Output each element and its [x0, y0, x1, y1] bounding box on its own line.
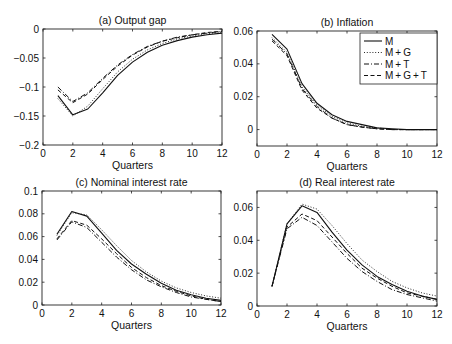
- x-tick-label: 4: [314, 149, 320, 160]
- y-tick-label: 0: [33, 24, 39, 35]
- y-tick-label: 0.06: [234, 202, 254, 213]
- x-tick-label: 12: [431, 149, 443, 160]
- chart-canvas: (a) Output gap024681012−0.2−0.15−0.1−0.0…: [0, 0, 452, 344]
- x-tick-label: 12: [431, 309, 443, 320]
- y-tick-label: 0.06: [234, 26, 254, 37]
- y-tick-label: 0: [247, 301, 253, 312]
- series-line-m: [57, 212, 221, 301]
- series-line-m-plus-g: [58, 33, 222, 117]
- x-tick-label: 0: [254, 309, 260, 320]
- x-tick-label: 8: [374, 309, 380, 320]
- x-tick-label: 2: [70, 148, 76, 159]
- x-tick-label: 4: [99, 308, 105, 319]
- panel-title: (c) Nominal interest rate: [75, 176, 187, 188]
- x-tick-label: 10: [401, 149, 413, 160]
- panel-inflation: (b) Inflation02468101200.020.040.06Quart…: [234, 16, 443, 172]
- x-tick-label: 2: [284, 309, 290, 320]
- x-tick-label: 12: [215, 308, 227, 319]
- legend-label: M + G: [385, 47, 411, 58]
- x-tick-label: 10: [186, 308, 198, 319]
- x-axis-label: Quarters: [111, 319, 152, 331]
- y-tick-label: 0.04: [234, 235, 254, 246]
- y-tick-label: −0.15: [14, 111, 40, 122]
- legend-label: M + G + T: [385, 70, 427, 81]
- axes-frame: [43, 29, 222, 145]
- panel-nominal-interest-rate: (c) Nominal interest rate02468101200.020…: [19, 176, 227, 331]
- series-line-m: [272, 206, 437, 300]
- x-tick-label: 12: [216, 148, 228, 159]
- y-tick-label: 0.02: [19, 277, 39, 288]
- x-tick-label: 0: [254, 149, 260, 160]
- x-tick-label: 6: [130, 148, 136, 159]
- y-tick-label: 0: [247, 124, 253, 135]
- panel-title: (b) Inflation: [321, 16, 374, 28]
- legend-label: M + T: [385, 59, 409, 70]
- y-tick-label: 0.02: [234, 268, 254, 279]
- panel-real-interest-rate: (d) Real interest rate02468101200.020.04…: [234, 176, 443, 332]
- legend-label: M: [385, 36, 393, 47]
- x-tick-label: 0: [39, 308, 45, 319]
- panel-title: (d) Real interest rate: [299, 176, 395, 188]
- x-axis-label: Quarters: [327, 160, 368, 172]
- series-line-m-plus-t: [58, 31, 222, 101]
- x-tick-label: 6: [344, 309, 350, 320]
- figure-grid: (a) Output gap024681012−0.2−0.15−0.1−0.0…: [0, 0, 452, 344]
- x-tick-label: 6: [344, 149, 350, 160]
- x-tick-label: 8: [160, 148, 166, 159]
- y-tick-label: 0.06: [19, 231, 39, 242]
- x-tick-label: 2: [284, 149, 290, 160]
- series-line-m-plus-t: [57, 222, 221, 302]
- x-tick-label: 4: [100, 148, 106, 159]
- legend: MM + GM + TM + G + T: [360, 33, 437, 84]
- series-line-m-plus-g-plus-t: [57, 221, 221, 302]
- y-tick-label: 0.08: [19, 208, 39, 219]
- y-tick-label: 0.02: [234, 91, 254, 102]
- axes-frame: [42, 191, 221, 305]
- x-tick-label: 2: [69, 308, 75, 319]
- series-line-m-plus-g-plus-t: [272, 214, 437, 299]
- x-tick-label: 10: [401, 309, 413, 320]
- x-tick-label: 8: [374, 149, 380, 160]
- panel-title: (a) Output gap: [99, 14, 167, 26]
- series-line-m-plus-g: [272, 204, 437, 296]
- x-axis-label: Quarters: [112, 159, 153, 171]
- x-tick-label: 4: [314, 309, 320, 320]
- x-tick-label: 6: [129, 308, 135, 319]
- axes-frame: [257, 191, 437, 306]
- y-tick-label: 0.04: [19, 254, 39, 265]
- x-tick-label: 10: [187, 148, 199, 159]
- series-line-m-plus-t: [272, 217, 437, 301]
- y-tick-label: −0.2: [19, 140, 39, 151]
- y-tick-label: 0: [32, 300, 38, 311]
- x-tick-label: 0: [40, 148, 46, 159]
- x-axis-label: Quarters: [327, 320, 368, 332]
- y-tick-label: −0.05: [14, 53, 40, 64]
- x-tick-label: 8: [159, 308, 165, 319]
- series-line-m: [58, 33, 222, 115]
- y-tick-label: −0.1: [19, 82, 39, 93]
- panel-output-gap: (a) Output gap024681012−0.2−0.15−0.1−0.0…: [14, 14, 228, 171]
- y-tick-label: 0.1: [24, 186, 38, 197]
- y-tick-label: 0.04: [234, 58, 254, 69]
- series-line-m-plus-g-plus-t: [58, 31, 222, 102]
